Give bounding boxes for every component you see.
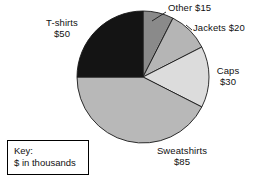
slice-label-caps-name: Caps	[217, 65, 240, 76]
slice-label-tshirts: T-shirts $50	[32, 17, 92, 39]
slice-label-caps-value: $30	[207, 76, 249, 87]
slice-label-tshirts-name: T-shirts	[46, 17, 78, 28]
slice-label-sweatshirts-value: $85	[140, 156, 224, 167]
chart-key-box: Key: $ in thousands	[7, 140, 89, 175]
pie-chart-figure: T-shirts $50 Other $15 Jackets $20 Caps …	[0, 0, 256, 181]
key-note: $ in thousands	[14, 157, 83, 169]
slice-label-sweatshirts-name: Sweatshirts	[157, 145, 207, 156]
key-title: Key:	[14, 145, 83, 157]
slice-label-sweatshirts: Sweatshirts $85	[140, 145, 224, 167]
pie-slice-group	[77, 11, 209, 143]
slice-label-tshirts-value: $50	[32, 28, 92, 39]
slice-label-other: Other $15	[168, 2, 211, 13]
slice-label-jackets: Jackets $20	[193, 22, 245, 33]
slice-label-caps: Caps $30	[207, 65, 249, 87]
